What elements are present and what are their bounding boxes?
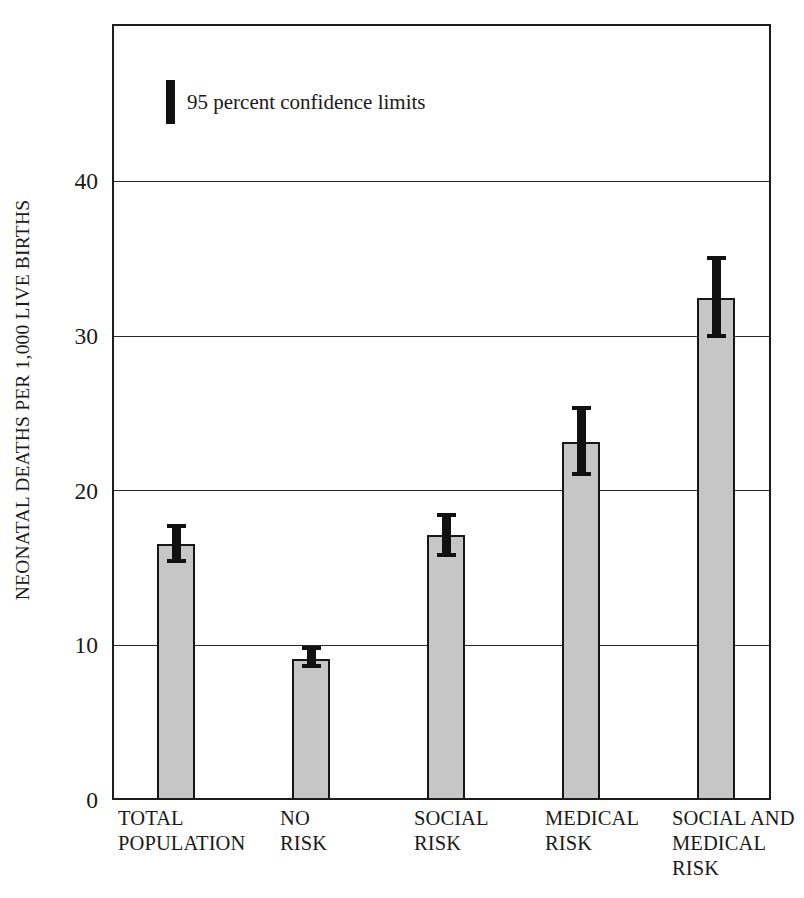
bar-no-risk — [292, 659, 330, 798]
confidence-limits-marker-icon — [166, 80, 175, 124]
bar-total-population — [157, 544, 195, 798]
error-bar-social-and-medical-risk — [712, 256, 721, 338]
error-bar-no-risk — [307, 646, 316, 668]
bar-social-risk — [427, 535, 465, 798]
error-cap-top — [707, 256, 726, 260]
plot-frame — [112, 24, 771, 800]
y-tick-label-0: 0 — [28, 789, 98, 813]
error-cap-bottom — [437, 553, 456, 557]
error-cap-top — [302, 646, 321, 650]
error-bar-social-risk — [442, 513, 451, 557]
legend-label-confidence-limits: 95 percent confidence limits — [187, 90, 426, 115]
plot-area — [114, 26, 769, 798]
x-label-total-population: TOTAL POPULATION — [118, 806, 245, 856]
error-bar-total-population — [172, 524, 181, 563]
bar-social-and-medical-risk — [697, 298, 735, 798]
error-cap-bottom — [707, 334, 726, 338]
gridline-30 — [114, 336, 769, 337]
x-label-social-risk: SOCIAL RISK — [414, 806, 489, 856]
y-tick-label-10: 10 — [28, 634, 98, 658]
error-cap-bottom — [167, 559, 186, 563]
neonatal-mortality-bar-chart: NEONATAL DEATHS PER 1,000 LIVE BIRTHS 0 … — [0, 0, 804, 898]
gridline-40 — [114, 181, 769, 182]
gridline-20 — [114, 490, 769, 491]
error-cap-bottom — [572, 472, 591, 476]
bar-medical-risk — [562, 442, 600, 798]
y-tick-label-30: 30 — [28, 325, 98, 349]
x-label-no-risk: NO RISK — [280, 806, 327, 856]
legend: 95 percent confidence limits — [166, 80, 426, 124]
error-cap-top — [572, 406, 591, 410]
y-tick-label-40: 40 — [28, 170, 98, 194]
error-bar-medical-risk — [577, 406, 586, 476]
x-label-social-and-medical-risk: SOCIAL AND MEDICAL RISK — [672, 806, 795, 881]
error-cap-top — [167, 524, 186, 528]
x-label-medical-risk: MEDICAL RISK — [545, 806, 639, 856]
y-tick-label-20: 20 — [28, 480, 98, 504]
y-axis-title: NEONATAL DEATHS PER 1,000 LIVE BIRTHS — [0, 0, 46, 800]
error-cap-bottom — [302, 664, 321, 668]
error-cap-top — [437, 513, 456, 517]
